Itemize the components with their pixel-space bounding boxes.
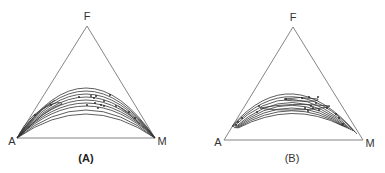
- panel-caption-a: (A): [78, 152, 94, 164]
- vertex-label-a-a: A: [8, 135, 16, 147]
- panel-caption-b: (B): [285, 152, 300, 164]
- vertex-label-a-b: A: [214, 136, 222, 148]
- ternary-figure: F A M (A): [0, 0, 385, 173]
- vertex-label-f-b: F: [290, 11, 297, 23]
- panel-b: F A M (B): [214, 11, 374, 164]
- vertex-label-m-b: M: [365, 137, 374, 149]
- vertex-label-f-a: F: [84, 10, 91, 22]
- panel-a: F A M (A): [8, 10, 166, 164]
- contour-curves-a: [17, 88, 155, 138]
- vertex-label-m-a: M: [157, 135, 166, 147]
